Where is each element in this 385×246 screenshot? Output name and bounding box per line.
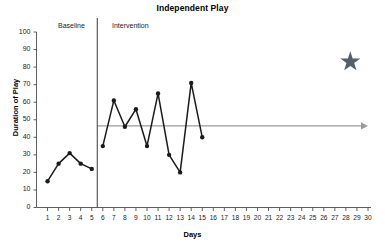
goal-level-arrow <box>97 122 368 129</box>
independent-play-chart: Independent Play Duration of Play Days B… <box>0 0 385 246</box>
data-series-group <box>45 81 204 184</box>
axes <box>34 32 372 211</box>
plot-area <box>0 0 385 246</box>
goal-star-icon <box>340 51 360 70</box>
